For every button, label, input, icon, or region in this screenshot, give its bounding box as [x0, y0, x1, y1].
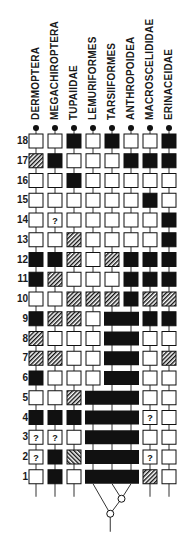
- state-absent-cell: [86, 371, 100, 385]
- shared-derived-bar: [104, 351, 139, 365]
- state-absent-cell: [86, 272, 100, 286]
- state-derived-cell: [124, 272, 138, 286]
- state-absent-cell: [143, 134, 157, 148]
- state-intermediate-cell: [105, 292, 119, 306]
- terminal-dot-icon: [71, 125, 77, 131]
- state-derived-cell: [162, 213, 176, 227]
- state-absent-cell: [48, 332, 62, 346]
- state-absent-cell: [86, 193, 100, 207]
- state-absent-cell: [67, 213, 81, 227]
- state-absent-cell: [162, 430, 176, 444]
- matrix-graphic: ??????: [0, 0, 190, 545]
- state-intermediate-cell: [29, 332, 43, 346]
- state-absent-cell: [143, 332, 157, 346]
- state-derived-cell: [48, 470, 62, 484]
- state-intermediate-cell: [29, 351, 43, 365]
- unknown-mark: ?: [33, 433, 39, 443]
- shared-derived-bar: [85, 430, 139, 444]
- state-derived-cell: [48, 411, 62, 425]
- state-absent-cell: [105, 233, 119, 247]
- state-absent-cell: [67, 193, 81, 207]
- state-intermediate-cell: [143, 292, 157, 306]
- state-derived-cell: [162, 154, 176, 168]
- state-derived-cell: [105, 134, 119, 148]
- state-absent-cell: [67, 272, 81, 286]
- state-absent-cell: [29, 470, 43, 484]
- state-absent-cell: [162, 193, 176, 207]
- state-absent-cell: [86, 351, 100, 365]
- state-derived-cell: [162, 233, 176, 247]
- state-derived-cell: [162, 312, 176, 326]
- state-absent-cell: [86, 154, 100, 168]
- state-derived-cell: [67, 174, 81, 188]
- state-absent-cell: [143, 391, 157, 405]
- state-derived-cell: [48, 154, 62, 168]
- state-intermediate-cell: [162, 351, 176, 365]
- state-derived-cell: [124, 253, 138, 267]
- state-absent-cell: [29, 193, 43, 207]
- state-absent-cell: [162, 174, 176, 188]
- unknown-mark: ?: [52, 216, 58, 226]
- unknown-mark: ?: [52, 433, 58, 443]
- state-absent-cell: [29, 391, 43, 405]
- state-absent-cell: [143, 233, 157, 247]
- state-absent-cell: [105, 193, 119, 207]
- state-intermediate-cell: [67, 253, 81, 267]
- terminal-dot-icon: [90, 125, 96, 131]
- shared-derived-bar: [104, 332, 139, 346]
- state-intermediate-cell: [48, 312, 62, 326]
- state-absent-cell: [67, 332, 81, 346]
- state-derived-cell: [143, 253, 157, 267]
- state-absent-cell: [67, 154, 81, 168]
- state-absent-cell: [48, 174, 62, 188]
- state-absent-cell: [67, 371, 81, 385]
- state-absent-cell: [48, 391, 62, 405]
- state-absent-cell: [86, 253, 100, 267]
- state-intermediate-cell: [67, 312, 81, 326]
- state-derived-cell: [162, 134, 176, 148]
- node-tarsii-anthropoidea-icon: [118, 495, 125, 502]
- state-intermediate-cell: [48, 351, 62, 365]
- state-absent-cell: [86, 332, 100, 346]
- shared-derived-bar: [85, 391, 139, 405]
- state-derived-cell: [124, 292, 138, 306]
- state-absent-cell: [105, 154, 119, 168]
- state-derived-cell: [29, 411, 43, 425]
- shared-derived-bar: [85, 470, 139, 484]
- terminal-dot-icon: [33, 125, 39, 131]
- state-absent-cell: [67, 470, 81, 484]
- state-intermediate-cell: [67, 391, 81, 405]
- terminal-dot-icon: [128, 125, 134, 131]
- state-absent-cell: [162, 411, 176, 425]
- state-absent-cell: [105, 272, 119, 286]
- state-derived-cell: [67, 411, 81, 425]
- state-absent-cell: [143, 351, 157, 365]
- unknown-mark: ?: [33, 453, 39, 463]
- node-primates-icon: [107, 510, 114, 517]
- unknown-mark: ?: [147, 453, 153, 463]
- state-absent-cell: [48, 233, 62, 247]
- state-absent-cell: [67, 430, 81, 444]
- state-absent-cell: [48, 371, 62, 385]
- state-intermediate-cell: [29, 154, 43, 168]
- state-absent-cell: [48, 193, 62, 207]
- state-intermediate-cell: [48, 272, 62, 286]
- state-derived-cell: [67, 134, 81, 148]
- shared-derived-bar: [104, 371, 139, 385]
- state-absent-cell: [162, 470, 176, 484]
- state-absent-cell: [143, 213, 157, 227]
- state-derived-cell: [143, 312, 157, 326]
- state-absent-cell: [124, 193, 138, 207]
- state-absent-cell: [86, 213, 100, 227]
- branch-line: [93, 484, 110, 514]
- state-intermediate-cell: [143, 470, 157, 484]
- shared-derived-bar: [85, 450, 139, 464]
- terminal-dot-icon: [166, 125, 172, 131]
- unknown-mark: ?: [147, 413, 153, 423]
- character-matrix-figure: DERMOPTERAMEGACHIROPTERATUPAIIDAELEMURIF…: [0, 0, 190, 545]
- state-derived-cell: [162, 253, 176, 267]
- state-derived-cell: [48, 253, 62, 267]
- state-absent-cell: [29, 174, 43, 188]
- state-derived-cell: [143, 272, 157, 286]
- state-derived-cell: [124, 154, 138, 168]
